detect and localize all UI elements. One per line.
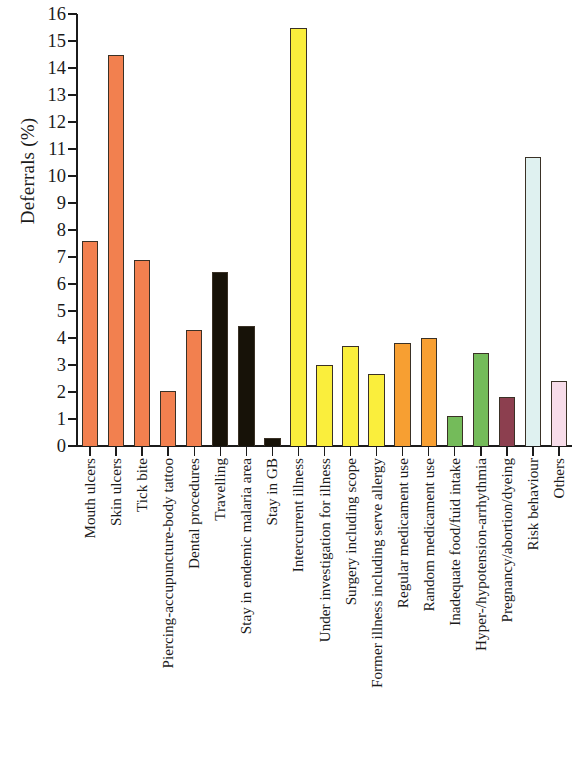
y-axis-tick-label: 4 (26, 329, 66, 348)
category-label-text: Pregnancy/abortion/dyeing (499, 458, 514, 623)
bar (134, 260, 150, 446)
bar (290, 28, 306, 447)
x-axis-tick-labels: Mouth ulcersSkin ulcersTick bitePiercing… (77, 458, 572, 770)
x-axis-tick-label: Risk behaviour (520, 458, 546, 770)
category-label-text: Regular medicament use (395, 458, 410, 608)
y-axis-tick-label: 8 (26, 221, 66, 240)
y-axis-tick-label: 3 (26, 356, 66, 375)
x-axis-tick-label: Intercurrent illness (285, 458, 311, 770)
y-axis-tick-label: 5 (26, 302, 66, 321)
y-axis-tick (68, 202, 77, 203)
y-axis-tick-label: 7 (26, 248, 66, 267)
x-axis-tick-label: Tick bite (129, 458, 155, 770)
bar (447, 416, 463, 446)
y-axis-tick (68, 40, 77, 41)
bar (473, 353, 489, 446)
bar (368, 374, 384, 446)
y-axis-tick-label: 6 (26, 275, 66, 294)
x-axis-ticks (77, 447, 572, 457)
y-axis-tick (68, 310, 77, 311)
y-axis-tick (68, 13, 77, 14)
y-axis-tick-label: 10 (26, 167, 66, 186)
x-axis-tick (454, 447, 455, 456)
category-label-text: Mouth ulcers (82, 458, 97, 539)
y-axis-tick (68, 418, 77, 419)
y-axis-tick-label: 15 (26, 32, 66, 51)
category-label-text: Surgery including scope (343, 458, 358, 605)
y-axis-tick-label: 11 (26, 140, 66, 159)
y-axis-tick-label: 14 (26, 59, 66, 78)
x-axis-tick-label: Stay in GB (259, 458, 285, 770)
y-axis-tick-label: 2 (26, 383, 66, 402)
x-axis-tick (428, 447, 429, 456)
bar (238, 326, 254, 446)
x-axis-tick (272, 447, 273, 456)
category-label-text: Inadequate food/fuid intake (447, 458, 462, 626)
category-label-text: Tick bite (135, 458, 150, 512)
x-axis-tick-label: Under investigation for illness (312, 458, 338, 770)
bar (316, 365, 332, 446)
bar (394, 343, 410, 446)
y-axis-tick-label: 12 (26, 113, 66, 132)
x-axis-tick (298, 447, 299, 456)
category-label-text: Stay in GB (265, 458, 280, 526)
y-axis-tick (68, 229, 77, 230)
category-label-text: Former illness including serve allergy (369, 458, 384, 688)
x-axis-tick-label: Regular medicament use (390, 458, 416, 770)
y-axis-tick (68, 121, 77, 122)
x-axis-tick-label: Dental procedures (181, 458, 207, 770)
bar-chart: Deferrals (%) 161514131211109876543210 M… (0, 0, 585, 770)
category-label-text: Others (551, 458, 566, 499)
bar (551, 381, 567, 446)
category-label-text: Stay in endemic malaria area (239, 458, 254, 634)
x-axis-tick-label: Mouth ulcers (77, 458, 103, 770)
x-axis-tick (376, 447, 377, 456)
x-axis-tick (246, 447, 247, 456)
y-axis-tick (68, 283, 77, 284)
y-axis-tick-label: 9 (26, 194, 66, 213)
y-axis-tick (68, 67, 77, 68)
x-axis-tick (167, 447, 168, 456)
bar (499, 397, 515, 446)
x-axis-tick (350, 447, 351, 456)
bar (108, 55, 124, 447)
x-axis-tick-label: Pregnancy/abortion/dyeing (494, 458, 520, 770)
y-axis-tick (68, 445, 77, 446)
category-label-text: Dental procedures (187, 458, 202, 569)
y-axis-tick-labels: 161514131211109876543210 (22, 14, 66, 446)
y-axis-tick-label: 16 (26, 5, 66, 24)
x-axis-tick-label: Travelling (207, 458, 233, 770)
x-axis-tick (402, 447, 403, 456)
x-axis-tick-label: Stay in endemic malaria area (233, 458, 259, 770)
x-axis-tick-label: Inadequate food/fuid intake (442, 458, 468, 770)
y-axis-tick (68, 337, 77, 338)
x-axis-tick (194, 447, 195, 456)
category-label-text: Piercing-accupuncture-body tattoo (161, 458, 176, 668)
category-label-text: Travelling (213, 458, 228, 521)
category-label-text: Intercurrent illness (291, 458, 306, 572)
y-axis-tick (68, 175, 77, 176)
y-axis-tick (68, 364, 77, 365)
y-axis-tick-label: 0 (26, 437, 66, 456)
category-label-text: Under investigation for illness (317, 458, 332, 642)
x-axis-tick (89, 447, 90, 456)
x-axis-tick (532, 447, 533, 456)
bar (82, 241, 98, 446)
bar (160, 391, 176, 446)
x-axis-tick-label: Surgery including scope (338, 458, 364, 770)
bar (525, 157, 541, 446)
category-label-text: Risk behaviour (525, 458, 540, 550)
category-label-text: Random medicament use (421, 458, 436, 612)
x-axis-tick-label: Skin ulcers (103, 458, 129, 770)
y-axis-tick-label: 13 (26, 86, 66, 105)
bar (342, 346, 358, 446)
x-axis-tick-label: Piercing-accupuncture-body tattoo (155, 458, 181, 770)
plot-area (77, 14, 572, 446)
x-axis-tick-label: Hyper-/hypotension-arrhythmia (468, 458, 494, 770)
x-axis-tick (324, 447, 325, 456)
x-axis-tick (141, 447, 142, 456)
category-label-text: Skin ulcers (108, 458, 123, 526)
x-axis-tick (506, 447, 507, 456)
x-axis-tick (558, 447, 559, 456)
category-label-text: Hyper-/hypotension-arrhythmia (473, 458, 488, 651)
